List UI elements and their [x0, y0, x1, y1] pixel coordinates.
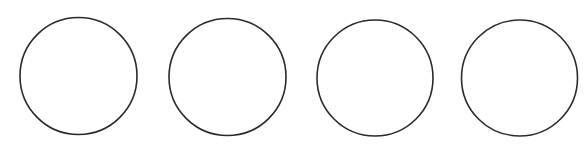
circle-1	[20, 18, 137, 135]
circle-4	[462, 20, 578, 136]
circle-3	[317, 20, 433, 136]
circle-2	[169, 19, 286, 136]
diagram-canvas	[0, 0, 588, 161]
circles-diagram	[0, 0, 588, 161]
